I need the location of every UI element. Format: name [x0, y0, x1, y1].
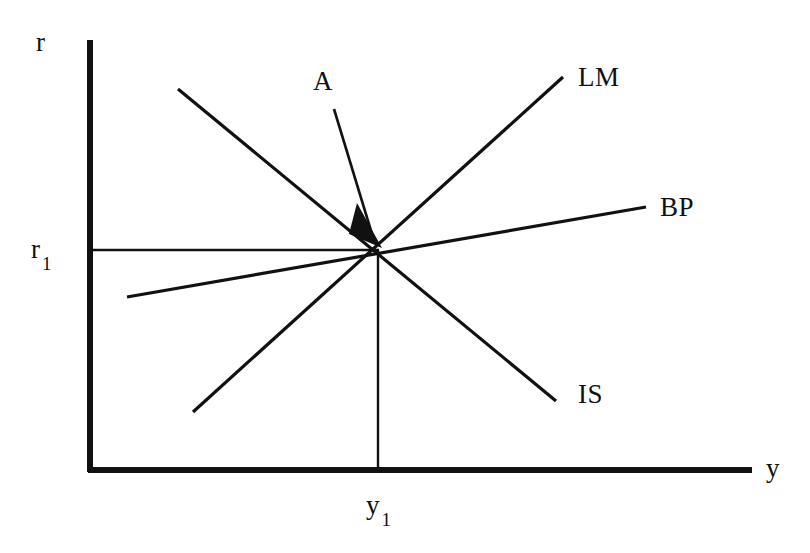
y-tick-subscript: 1	[42, 253, 52, 274]
bp-curve	[127, 207, 646, 297]
figure-canvas: r r1 y y1 A LM BP IS	[0, 0, 810, 553]
y-tick-label-r1: r1	[31, 236, 50, 267]
y-axis-label: r	[36, 29, 45, 56]
x-tick-base: y	[366, 490, 380, 520]
is-lm-bp-diagram	[0, 0, 810, 553]
bp-curve-label: BP	[660, 194, 694, 221]
x-tick-subscript: 1	[382, 509, 392, 530]
x-axis-label: y	[766, 455, 780, 482]
lm-curve-label: LM	[578, 64, 620, 91]
is-curve-label: IS	[578, 381, 603, 408]
y-tick-base: r	[31, 234, 40, 264]
equilibrium-point-label: A	[313, 68, 333, 95]
point-a-pointer-line	[334, 109, 372, 234]
x-tick-label-y1: y1	[366, 492, 389, 523]
